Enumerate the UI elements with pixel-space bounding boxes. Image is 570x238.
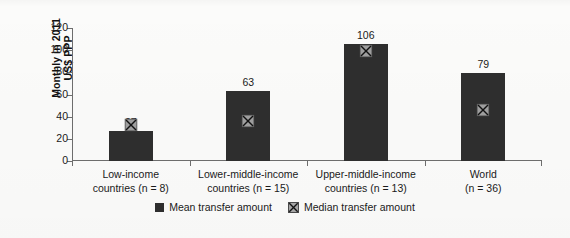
chart-legend: Mean transfer amountMedian transfer amou… bbox=[0, 201, 570, 213]
x-category-label-line-1: Lower-middle-income bbox=[190, 167, 308, 181]
plot-area: 020406080100120 276310679 bbox=[72, 28, 542, 161]
y-tick-label: 40 bbox=[56, 110, 68, 122]
x-category-label-line-1: Low-income bbox=[72, 167, 190, 181]
legend-item[interactable]: Mean transfer amount bbox=[155, 201, 272, 213]
x-marker-icon bbox=[124, 118, 137, 131]
y-tick-label: 80 bbox=[56, 65, 68, 77]
y-tick-label: 120 bbox=[50, 21, 68, 33]
x-category-label: Upper-middle-incomecountries (n = 13) bbox=[307, 167, 425, 195]
y-tick-label: 100 bbox=[50, 43, 68, 55]
x-axis-category-labels: Low-incomecountries (n = 8)Lower-middle-… bbox=[72, 167, 542, 201]
chart-figure: Monthly in 2011 US$ PPP 020406080100120 … bbox=[0, 0, 570, 238]
x-marker-icon bbox=[242, 114, 255, 127]
x-category-label-line-1: World bbox=[425, 167, 543, 181]
x-tick-mark bbox=[425, 161, 426, 166]
x-category-label: World(n = 36) bbox=[425, 167, 543, 195]
x-category-label-line-1: Upper-middle-income bbox=[307, 167, 425, 181]
legend-label: Median transfer amount bbox=[304, 201, 415, 213]
median-marker-group bbox=[190, 28, 308, 161]
x-tick-mark bbox=[541, 161, 542, 166]
x-tick-mark bbox=[307, 161, 308, 166]
x-tick-mark bbox=[190, 161, 191, 166]
x-marker-icon bbox=[288, 202, 299, 213]
median-marker-group bbox=[307, 28, 425, 161]
x-tick-mark bbox=[72, 161, 73, 166]
median-marker-group bbox=[425, 28, 543, 161]
legend-item[interactable]: Median transfer amount bbox=[288, 201, 415, 213]
median-marker-group bbox=[72, 28, 190, 161]
legend-label: Mean transfer amount bbox=[169, 201, 272, 213]
x-category-label-line-2: countries (n = 15) bbox=[190, 181, 308, 195]
x-category-label: Low-incomecountries (n = 8) bbox=[72, 167, 190, 195]
y-tick-label: 20 bbox=[56, 132, 68, 144]
x-marker-icon bbox=[359, 44, 372, 57]
x-category-label-line-2: countries (n = 8) bbox=[72, 181, 190, 195]
y-tick-label: 60 bbox=[56, 88, 68, 100]
x-category-label-line-2: countries (n = 13) bbox=[307, 181, 425, 195]
filled-square-icon bbox=[155, 203, 164, 212]
y-tick-label: 0 bbox=[62, 154, 68, 166]
x-category-label: Lower-middle-incomecountries (n = 15) bbox=[190, 167, 308, 195]
x-marker-icon bbox=[477, 102, 490, 115]
x-category-label-line-2: (n = 36) bbox=[425, 181, 543, 195]
